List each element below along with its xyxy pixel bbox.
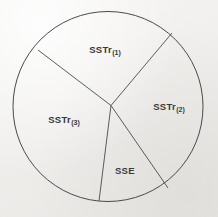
sector-label-sse-base: SSE: [115, 165, 135, 176]
sector-label-sstr1-subscript: (1): [112, 49, 121, 56]
sector-label-sstr1-base: SSTr: [89, 44, 112, 55]
partition-circle-svg: [0, 0, 218, 217]
divider-sse-sstr3: [99, 106, 111, 202]
sector-label-sstr2: SSTr(2): [153, 101, 185, 113]
sector-label-sstr3-subscript: (3): [71, 119, 80, 126]
partition-circle-figure: SSTr(1) SSTr(2) SSTr(3) SSE: [0, 0, 218, 217]
sector-label-sstr2-subscript: (2): [176, 106, 185, 113]
sector-label-sstr2-base: SSTr: [153, 101, 176, 112]
sector-label-sstr3-base: SSTr: [48, 114, 71, 125]
divider-sstr3-sstr1: [38, 50, 111, 106]
sector-label-sse: SSE: [115, 165, 135, 177]
sector-label-sstr1: SSTr(1): [89, 44, 121, 56]
sector-label-sstr3: SSTr(3): [48, 114, 80, 126]
